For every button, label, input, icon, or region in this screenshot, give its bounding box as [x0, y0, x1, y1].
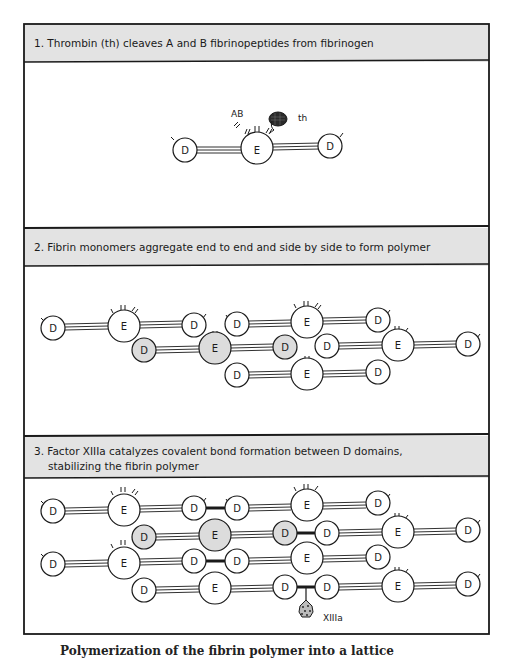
- d-domain-node: D: [182, 313, 206, 337]
- svg-text:E: E: [395, 340, 401, 351]
- panel-3-diagram: D E D D E D D E D D E D D E D D E D D E …: [41, 484, 480, 623]
- d-domain-node: D: [366, 308, 390, 332]
- e-domain-node: E: [291, 358, 323, 390]
- d-domain-node: D: [318, 133, 343, 158]
- d-domain-node: D: [41, 499, 65, 523]
- thrombin-label: th: [298, 113, 307, 123]
- d-domain-node: D: [132, 578, 156, 602]
- svg-text:D: D: [281, 582, 289, 593]
- svg-text:D: D: [190, 556, 198, 567]
- panel-2-title: 2. Fibrin monomers aggregate end to end …: [34, 241, 431, 253]
- d-domain-node: D: [315, 521, 339, 545]
- d-domain-node: D: [366, 545, 390, 569]
- e-domain-node-shaded: E: [199, 519, 231, 551]
- e-domain-node: E: [291, 542, 323, 574]
- svg-text:D: D: [140, 345, 148, 356]
- svg-text:D: D: [281, 528, 289, 539]
- fibrinopeptides-label: AB: [231, 109, 243, 119]
- d-domain-node: D: [182, 496, 206, 520]
- d-domain-node-shaded: D: [273, 521, 297, 545]
- d-domain-node: D: [366, 491, 390, 515]
- d-domain-node: D: [315, 334, 339, 358]
- d-domain-node: D: [225, 312, 249, 336]
- panel-1-title: 1. Thrombin (th) cleaves A and B fibrino…: [34, 37, 374, 49]
- d-domain-node: D: [225, 363, 249, 387]
- panel-3-title-line1: 3. Factor XIIIa catalyzes covalent bond …: [34, 445, 403, 457]
- svg-text:D: D: [464, 525, 472, 536]
- panel-2-diagram: D E D D E D D E D D E D D E D: [41, 301, 480, 390]
- svg-text:D: D: [374, 498, 382, 509]
- svg-text:E: E: [304, 369, 310, 380]
- svg-text:D: D: [49, 506, 57, 517]
- svg-text:D: D: [326, 141, 334, 152]
- svg-text:E: E: [212, 343, 218, 354]
- svg-text:D: D: [49, 323, 57, 334]
- e-domain-node: E: [382, 329, 414, 361]
- svg-text:E: E: [395, 527, 401, 538]
- svg-text:D: D: [140, 585, 148, 596]
- svg-text:D: D: [233, 503, 241, 514]
- svg-text:D: D: [233, 556, 241, 567]
- d-domain-node-shaded: D: [132, 525, 156, 549]
- svg-text:D: D: [323, 341, 331, 352]
- svg-text:E: E: [121, 505, 127, 516]
- svg-text:D: D: [140, 532, 148, 543]
- d-domain-node: D: [273, 575, 297, 599]
- d-domain-node: D: [456, 572, 480, 596]
- d-domain-node: D: [41, 552, 65, 576]
- svg-text:D: D: [181, 145, 189, 156]
- svg-text:E: E: [212, 583, 218, 594]
- svg-text:D: D: [374, 552, 382, 563]
- d-domain-node: D: [456, 332, 480, 356]
- d-domain-node: D: [171, 137, 197, 162]
- d-domain-node-shaded: D: [132, 338, 156, 362]
- svg-text:D: D: [374, 367, 382, 378]
- e-domain-node: E: [382, 570, 414, 602]
- svg-text:E: E: [304, 317, 310, 328]
- svg-text:D: D: [233, 370, 241, 381]
- svg-text:E: E: [254, 145, 260, 156]
- panel-1-diagram: D E D AB th: [171, 109, 343, 164]
- e-domain-node: E: [199, 572, 231, 604]
- d-domain-node: D: [182, 549, 206, 573]
- svg-text:D: D: [233, 319, 241, 330]
- factor-xiiia-icon: [299, 588, 313, 617]
- e-domain-node: E: [382, 516, 414, 548]
- panel-3-title-line2: stabilizing the fibrin polymer: [48, 460, 200, 472]
- svg-text:E: E: [395, 581, 401, 592]
- svg-text:D: D: [464, 579, 472, 590]
- svg-text:D: D: [190, 320, 198, 331]
- svg-text:E: E: [212, 530, 218, 541]
- d-domain-node: D: [456, 518, 480, 542]
- svg-text:D: D: [49, 559, 57, 570]
- svg-text:E: E: [121, 321, 127, 332]
- svg-text:E: E: [304, 500, 310, 511]
- svg-text:D: D: [374, 315, 382, 326]
- svg-text:D: D: [464, 339, 472, 350]
- e-domain-node: E: [291, 489, 323, 521]
- svg-text:E: E: [121, 558, 127, 569]
- figure-caption: Polymerization of the fibrin polymer int…: [60, 644, 394, 658]
- tick-marks: [41, 301, 480, 360]
- svg-text:D: D: [190, 503, 198, 514]
- d-domain-node: D: [225, 496, 249, 520]
- svg-text:D: D: [281, 342, 289, 353]
- factor-xiiia-label: XIIIa: [323, 613, 343, 623]
- d-domain-node: D: [366, 360, 390, 384]
- svg-text:D: D: [323, 528, 331, 539]
- e-domain-node-shaded: E: [199, 332, 231, 364]
- svg-text:D: D: [323, 582, 331, 593]
- e-domain-node: E: [291, 306, 323, 338]
- e-domain-node: E: [241, 132, 273, 164]
- e-domain-node: E: [108, 494, 140, 526]
- d-domain-node: D: [41, 316, 65, 340]
- svg-text:E: E: [304, 553, 310, 564]
- d-domain-node: D: [225, 549, 249, 573]
- d-domain-node: D: [315, 575, 339, 599]
- e-domain-node: E: [108, 547, 140, 579]
- e-domain-node: E: [108, 310, 140, 342]
- d-domain-node-shaded: D: [273, 335, 297, 359]
